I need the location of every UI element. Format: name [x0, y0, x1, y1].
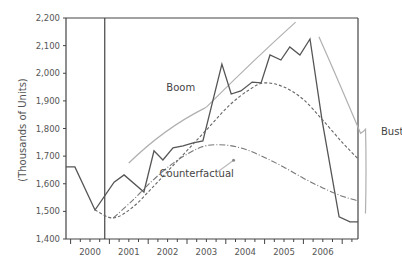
y-tick-label: 1,500	[36, 206, 60, 216]
chart: 1,4001,5001,6001,7001,8001,9002,0002,100…	[0, 0, 402, 271]
annotation-braces	[129, 22, 366, 213]
series-trend-line	[95, 83, 358, 218]
y-tick-label: 2,100	[36, 41, 60, 51]
boom-brace	[129, 22, 296, 163]
x-tick-label: 2000	[79, 247, 101, 257]
bust-brace	[319, 37, 366, 214]
annotation-arrow-head	[232, 159, 235, 162]
y-tick-label: 1,700	[36, 151, 60, 161]
y-tick-label: 2,000	[36, 68, 60, 78]
x-tick-label: 2006	[312, 247, 334, 257]
x-tick-label: 2002	[157, 247, 179, 257]
annotation-counterfactual: Counterfactual	[160, 168, 234, 179]
series-counterfactual-line	[113, 145, 358, 218]
y-tick-label: 1,400	[36, 234, 60, 244]
y-tick-label: 1,900	[36, 96, 60, 106]
y-tick-label: 1,800	[36, 124, 60, 134]
y-tick-label: 1,600	[36, 179, 60, 189]
x-tick-label: 2004	[234, 247, 256, 257]
annotation-boom: Boom	[166, 82, 195, 93]
x-tick-label: 2001	[118, 247, 140, 257]
series-group	[66, 39, 358, 222]
x-tick-label: 2005	[273, 247, 295, 257]
annotation-bust: Bust	[381, 126, 402, 137]
y-tick-label: 2,200	[36, 13, 60, 23]
x-tick-label: 2003	[196, 247, 218, 257]
series-actual-line	[66, 39, 358, 222]
axes: 1,4001,5001,6001,7001,8001,9002,0002,100…	[36, 13, 358, 257]
y-axis-title: (Thousands of Units)	[17, 78, 28, 182]
